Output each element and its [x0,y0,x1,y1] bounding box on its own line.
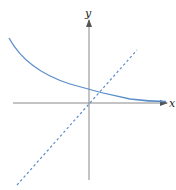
x-axis-label: x [169,97,176,110]
exponential-decay-curve [9,38,166,102]
identity-line [17,50,137,185]
graph-canvas: y x [0,0,176,190]
y-axis-label: y [84,7,92,20]
